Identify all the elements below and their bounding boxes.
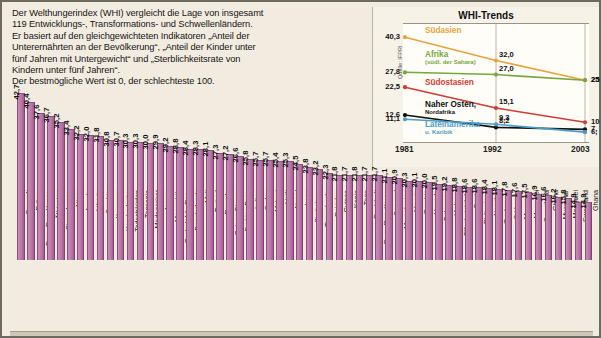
bar-label-cell: Kambodscha bbox=[116, 190, 126, 260]
bar-label-cell: Eritrea bbox=[26, 190, 36, 260]
bar-label-cell: Laos bbox=[295, 190, 305, 260]
bar-label-cell: Komoren bbox=[106, 190, 116, 260]
bar-value-label: 37,6 bbox=[32, 105, 41, 120]
bar-label-cell: Togo bbox=[354, 190, 364, 260]
bar-label-cell: Pakistan bbox=[325, 190, 335, 260]
trend-point bbox=[403, 70, 407, 74]
bar-value-label: 30,0 bbox=[141, 134, 150, 149]
bar-column: 31,8Sambia bbox=[96, 88, 106, 260]
bar-value-label: 40,4 bbox=[22, 94, 31, 109]
bar-label-cell: Tansania bbox=[135, 190, 145, 260]
bar-label-cell: Kenia bbox=[344, 190, 354, 260]
bar-value-label: 21,7 bbox=[360, 167, 369, 182]
bar-column: 28,3Mali bbox=[195, 88, 205, 260]
bar-label-cell: Dschibuti bbox=[364, 190, 374, 260]
infographic-frame: Der Welthungerindex (WHI) vergleicht die… bbox=[0, 0, 601, 338]
bar-label-cell: Benin bbox=[464, 190, 474, 260]
bar-value-label: 21,7 bbox=[370, 167, 379, 182]
bar-label-cell: Simbabwe bbox=[305, 190, 315, 260]
bar-label-cell: Timor-Leste bbox=[315, 190, 325, 260]
bar-label-cell: Gambia bbox=[414, 190, 424, 260]
bar-value-label: 30,3 bbox=[131, 133, 140, 148]
bar-column: 25,7Malawi bbox=[265, 88, 275, 260]
bar-column: 30,7Kambodscha bbox=[116, 88, 126, 260]
bar-value-label: 27,3 bbox=[211, 145, 220, 160]
bar-column: 32,0Liberia bbox=[86, 88, 96, 260]
trend-point bbox=[583, 78, 587, 82]
bar-value-label: 30,8 bbox=[102, 131, 111, 146]
bar-value-label: 20,1 bbox=[410, 173, 419, 188]
bar-column: 30,3Tansania bbox=[135, 88, 145, 260]
bar-label-cell: Mosambik bbox=[165, 190, 175, 260]
bar-label-cell: Guinea bbox=[335, 190, 345, 260]
trend-start-value: 11,1 bbox=[376, 114, 400, 123]
bar-value-label: 28,8 bbox=[171, 139, 180, 154]
bar-label-cell: Vietnam bbox=[444, 190, 454, 260]
intro-line-5: fünf Jahren mit Untergewicht“ und „Sterb… bbox=[12, 54, 332, 65]
bar-column: 42,7Burundi bbox=[16, 88, 26, 260]
source-label: Quelle: IFPRI bbox=[397, 45, 403, 79]
bar-label-cell: Haiti bbox=[275, 190, 285, 260]
trend-mid-value: 9,3 bbox=[499, 113, 510, 122]
trend-start-value: 22,5 bbox=[376, 82, 400, 91]
bar-value-label: 21,8 bbox=[350, 166, 359, 181]
bar-value-label: 25,8 bbox=[241, 151, 250, 166]
bar-value-label: 29,2 bbox=[161, 137, 170, 152]
bottom-rule bbox=[10, 331, 593, 336]
bar-label-cell: Senegal bbox=[384, 190, 394, 260]
trend-series-label: Südostasien bbox=[425, 78, 474, 87]
bar-label-cell: Burundi bbox=[16, 190, 26, 260]
bar-label-cell: Elfenbeinküste bbox=[454, 190, 464, 260]
bar-column: 29,2Mosambik bbox=[165, 88, 175, 260]
bar-label-cell: Äthiopien bbox=[46, 190, 56, 260]
intro-line-4: Unterernährten an der Bevölkerung“, „Ant… bbox=[12, 42, 332, 53]
bar-label-cell: Tadschikistan bbox=[125, 190, 135, 260]
bar-column: 32,2Angola bbox=[76, 88, 86, 260]
trend-series-sublabel: u. Karibik bbox=[425, 129, 480, 135]
bar-country-label: Ghana bbox=[591, 190, 600, 211]
trend-point bbox=[583, 130, 587, 134]
intro-line-2: 119 Entwicklungs-, Transformations- und … bbox=[12, 19, 332, 30]
bar-label-cell: Jemen bbox=[155, 190, 165, 260]
trend-point bbox=[494, 106, 498, 110]
bar-label-cell: Malawi bbox=[265, 190, 275, 260]
bar-value-label: 21,8 bbox=[330, 166, 339, 181]
bar-label-cell: Mali bbox=[195, 190, 205, 260]
bar-label-cell: Sri Lanka bbox=[504, 190, 514, 260]
bar-column: 33,4Niger bbox=[66, 88, 76, 260]
bar-column: 35,2Sierra Leone bbox=[56, 88, 66, 260]
bar-label-cell: Philippinen bbox=[474, 190, 484, 260]
bar-label-cell: Dem. Rep. Kongo bbox=[36, 190, 46, 260]
trend-series-label: Lateinamerikau. Karibik bbox=[425, 120, 480, 135]
bar-label-cell: Ruanda bbox=[215, 190, 225, 260]
trend-point bbox=[494, 58, 498, 62]
bar-value-label: 35,2 bbox=[52, 114, 61, 129]
bar-value-label: 25,7 bbox=[251, 151, 260, 166]
bar-column: 28,8Zentralafrik. Rep. bbox=[175, 88, 185, 260]
bar-value-label: 36,7 bbox=[42, 108, 51, 123]
whi-trends-panel: WHI-Trends 40,327,822,512,611,132,027,01… bbox=[372, 7, 599, 167]
bar-value-label: 23,8 bbox=[301, 159, 310, 174]
bar-label-cell: Ghana bbox=[583, 190, 593, 260]
bar-label-cell: Burkina Faso bbox=[235, 190, 245, 260]
bar-label-cell: Nigeria bbox=[404, 190, 414, 260]
bar-value-label: 28,3 bbox=[191, 141, 200, 156]
bar-value-label: 23,2 bbox=[311, 161, 320, 176]
bar-value-label: 21,1 bbox=[380, 169, 389, 184]
trend-point bbox=[403, 117, 407, 121]
bar-label-cell: Nepal bbox=[285, 190, 295, 260]
bar-label-cell: Tschad bbox=[205, 190, 215, 260]
bar-value-label: 42,7 bbox=[12, 85, 21, 100]
bar-label-cell: Zentralafrik. Rep. bbox=[175, 190, 185, 260]
trend-point bbox=[403, 35, 407, 39]
bar-column: 26,6Burkina Faso bbox=[235, 88, 245, 260]
bar-value-label: 25,7 bbox=[261, 151, 270, 166]
trend-x-tick: 1981 bbox=[395, 144, 414, 154]
bar-value-label: 33,4 bbox=[62, 121, 71, 136]
trend-mid-value: 27,0 bbox=[499, 64, 514, 73]
bar-column: 29,9Jemen bbox=[155, 88, 165, 260]
bar-value-label: 20,3 bbox=[400, 172, 409, 187]
bar-label-cell: Botswana bbox=[434, 190, 444, 260]
bar-value-label: 30,7 bbox=[112, 132, 121, 147]
trend-point bbox=[494, 122, 498, 126]
